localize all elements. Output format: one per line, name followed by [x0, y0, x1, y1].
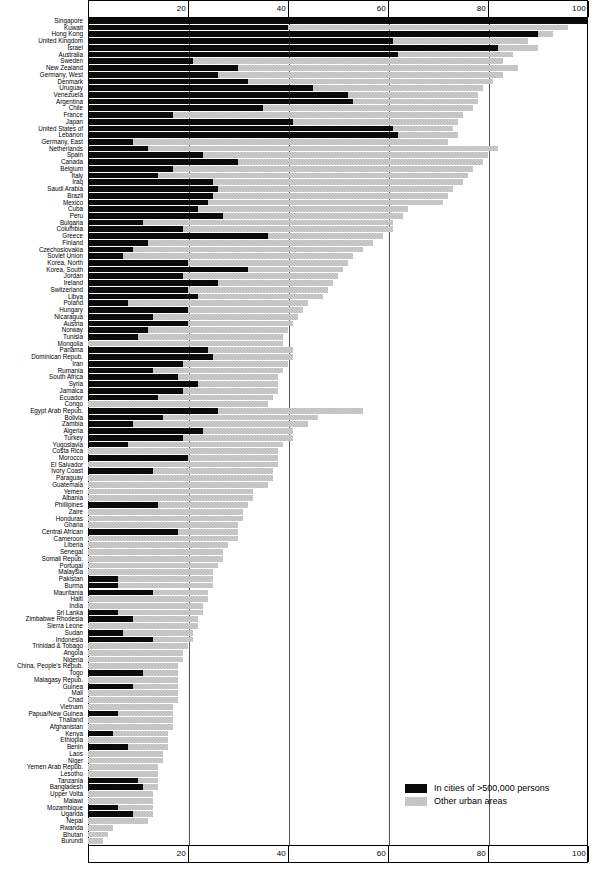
stacked-bar	[88, 435, 588, 441]
country-label: Burundi	[61, 838, 83, 844]
bar-segment-other-urban	[188, 260, 348, 266]
stacked-bar	[88, 92, 588, 98]
chart-row: Iraq	[0, 179, 598, 185]
stacked-bar	[88, 737, 588, 743]
stacked-bar	[88, 744, 588, 750]
bar-segment-big-city	[88, 616, 133, 622]
stacked-bar	[88, 818, 588, 824]
bar-segment-other-urban	[88, 596, 208, 602]
bar-segment-other-urban	[88, 556, 223, 562]
bar-segment-other-urban	[218, 186, 453, 192]
bar-segment-big-city	[88, 159, 238, 165]
bar-segment-big-city	[88, 287, 188, 293]
chart-row: Yemen	[0, 489, 598, 495]
chart-row: Afghanistan	[0, 724, 598, 730]
chart-row: Saudi Arabia	[0, 186, 598, 192]
bar-segment-big-city	[88, 99, 353, 105]
bar-segment-big-city	[88, 112, 173, 118]
chart-row: Mexico	[0, 200, 598, 206]
stacked-bar	[88, 455, 588, 461]
legend-label-big-city: In cities of >500,000 persons	[434, 783, 549, 793]
bar-segment-other-urban	[118, 583, 213, 589]
bar-segment-big-city	[88, 428, 203, 434]
bar-segment-big-city	[88, 240, 148, 246]
stacked-bar	[88, 704, 588, 710]
stacked-bar	[88, 206, 588, 212]
chart-row: Zimbabwe Rhodesia	[0, 616, 598, 622]
bar-segment-other-urban	[198, 381, 278, 387]
bar-segment-big-city	[88, 72, 218, 78]
chart-row: Italy	[0, 173, 598, 179]
chart-row: Angola	[0, 650, 598, 656]
bar-segment-other-urban	[143, 220, 393, 226]
chart-row: Zambia	[0, 421, 598, 427]
bar-segment-other-urban	[248, 267, 343, 273]
bar-segment-big-city	[88, 368, 153, 374]
bar-segment-big-city	[88, 711, 118, 717]
chart-row: Congo	[0, 401, 598, 407]
bar-segment-other-urban	[313, 85, 483, 91]
bar-segment-other-urban	[88, 724, 173, 730]
stacked-bar	[88, 253, 588, 259]
chart-row: Japan	[0, 119, 598, 125]
bar-segment-other-urban	[203, 428, 293, 434]
chart-row: Ivory Coast	[0, 468, 598, 474]
chart-row: Indonesia	[0, 637, 598, 643]
chart-row: Vietnam	[0, 704, 598, 710]
bar-segment-other-urban	[88, 603, 203, 609]
bar-segment-other-urban	[238, 65, 518, 71]
chart-row: Germany, East	[0, 139, 598, 145]
stacked-bar	[88, 79, 588, 85]
stacked-bar	[88, 758, 588, 764]
bar-segment-other-urban	[123, 253, 353, 259]
bar-segment-big-city	[88, 468, 153, 474]
bar-segment-big-city	[88, 132, 398, 138]
bar-segment-big-city	[88, 314, 153, 320]
stacked-bar	[88, 99, 588, 105]
stacked-bar	[88, 233, 588, 239]
bar-segment-big-city	[88, 45, 498, 51]
bar-segment-big-city	[88, 247, 133, 253]
bar-segment-other-urban	[88, 838, 103, 844]
chart-row: Malagasy Repub.	[0, 677, 598, 683]
bar-segment-other-urban	[218, 280, 333, 286]
stacked-bar	[88, 468, 588, 474]
stacked-bar	[88, 724, 588, 730]
stacked-bar	[88, 475, 588, 481]
bar-segment-other-urban	[238, 159, 483, 165]
bar-segment-other-urban	[218, 72, 503, 78]
stacked-bar	[88, 717, 588, 723]
chart-row: Hungary	[0, 307, 598, 313]
bar-segment-other-urban	[183, 273, 338, 279]
chart-row: Senegal	[0, 549, 598, 555]
bar-segment-other-urban	[213, 354, 293, 360]
chart-row: Chad	[0, 697, 598, 703]
bar-segment-other-urban	[133, 616, 198, 622]
bar-segment-big-city	[88, 233, 268, 239]
chart-row: Hong Kong	[0, 31, 598, 37]
chart-row: Israel	[0, 45, 598, 51]
bar-segment-big-city	[88, 92, 348, 98]
stacked-bar	[88, 300, 588, 306]
chart-row: Pakistan	[0, 576, 598, 582]
stacked-bar	[88, 415, 588, 421]
bar-segment-big-city	[88, 146, 148, 152]
bar-segment-other-urban	[173, 112, 463, 118]
bar-segment-other-urban	[118, 610, 203, 616]
stacked-bar	[88, 200, 588, 206]
stacked-bar	[88, 166, 588, 172]
bar-segment-other-urban	[128, 442, 283, 448]
stacked-bar	[88, 260, 588, 266]
stacked-bar	[88, 65, 588, 71]
bar-segment-other-urban	[148, 240, 373, 246]
stacked-bar	[88, 549, 588, 555]
bar-segment-other-urban	[88, 516, 243, 522]
bar-segment-big-city	[88, 630, 123, 636]
bar-segment-big-city	[88, 361, 183, 367]
stacked-bar	[88, 361, 588, 367]
chart-row: Algeria	[0, 428, 598, 434]
bar-segment-other-urban	[158, 395, 273, 401]
chart-row: Libya	[0, 294, 598, 300]
bar-segment-other-urban	[183, 361, 288, 367]
bar-segment-big-city	[88, 381, 198, 387]
